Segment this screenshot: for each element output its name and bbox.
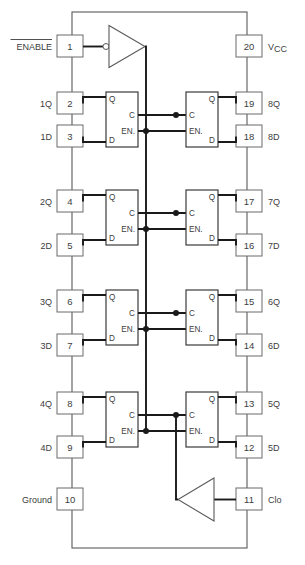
flipflop-3-port-c: C xyxy=(129,309,135,318)
pin-14[interactable]: 14 xyxy=(236,334,262,356)
flipflop-3-port-en: EN. xyxy=(121,325,135,334)
pin-12-label: 5D xyxy=(268,443,280,453)
pin-18[interactable]: 18 xyxy=(236,125,262,147)
pin-1-number: 1 xyxy=(67,41,72,52)
ic-pinout-diagram: 1 2 3 4 5 xyxy=(0,0,305,565)
pin-6-label: 3Q xyxy=(40,297,52,307)
pin-17[interactable]: 17 xyxy=(236,190,262,212)
pin-18-label: 8D xyxy=(268,132,280,142)
pin-20-number: 20 xyxy=(244,41,255,52)
pin-10[interactable]: 10 xyxy=(57,488,83,510)
flipflop-5-port-q: Q xyxy=(209,395,215,404)
pin-7-number: 7 xyxy=(67,340,72,351)
pin-13-label: 5Q xyxy=(268,399,280,409)
junction-dot xyxy=(173,412,179,418)
flipflop-8-port-c: C xyxy=(189,111,195,120)
flipflop-7-port-en: EN. xyxy=(189,225,203,234)
pin-12[interactable]: 12 xyxy=(236,436,262,458)
flipflop-4-port-c: C xyxy=(129,411,135,420)
pin-8-label: 4Q xyxy=(40,399,52,409)
pin-1[interactable]: 1 xyxy=(57,35,83,57)
pin-13-number: 13 xyxy=(244,398,255,409)
flipflop-3-port-d: D xyxy=(109,334,115,343)
flipflop-1-port-en: EN. xyxy=(121,127,135,136)
pin-7[interactable]: 7 xyxy=(57,334,83,356)
pin-6[interactable]: 6 xyxy=(57,290,83,312)
junction-dot xyxy=(143,326,149,332)
pin-5-label: 2D xyxy=(40,241,52,251)
flipflop-6-port-q: Q xyxy=(209,293,215,302)
pin-11-label: Clo xyxy=(268,495,282,505)
pin-2-number: 2 xyxy=(67,98,72,109)
flipflop-2-port-en: EN. xyxy=(121,225,135,234)
junction-dot xyxy=(143,128,149,134)
right-pin-labels: VCC 8Q 8D 7Q 7D 6Q 6D 5Q 5D Clo xyxy=(268,42,288,505)
pin-15-label: 6Q xyxy=(268,297,280,307)
flipflop-7-port-q: Q xyxy=(209,193,215,202)
flipflop-8-port-q: Q xyxy=(209,95,215,104)
flipflop-1-port-q: Q xyxy=(109,95,115,104)
pin-16-label: 7D xyxy=(268,241,280,251)
pin-20-label: VCC xyxy=(268,42,288,55)
flipflop-5-port-en: EN. xyxy=(189,427,203,436)
pin-13[interactable]: 13 xyxy=(236,392,262,414)
pin-16-number: 16 xyxy=(244,240,255,251)
flipflop-1-port-c: C xyxy=(129,111,135,120)
junction-dot xyxy=(173,112,179,118)
pin-14-label: 6D xyxy=(268,341,280,351)
pin-9-number: 9 xyxy=(67,442,72,453)
pin-2[interactable]: 2 xyxy=(57,92,83,114)
pin-5[interactable]: 5 xyxy=(57,234,83,256)
pin-17-number: 17 xyxy=(244,196,255,207)
flipflop-5-port-c: C xyxy=(189,411,195,420)
pin-19-number: 19 xyxy=(244,98,255,109)
pin-15-number: 15 xyxy=(244,296,255,307)
flipflop-4-port-en: EN. xyxy=(121,427,135,436)
flipflop-5-port-d: D xyxy=(209,436,215,445)
pin-11-number: 11 xyxy=(244,494,254,505)
junction-dot xyxy=(173,310,179,316)
pin-4-number: 4 xyxy=(67,196,72,207)
flipflop-4-port-q: Q xyxy=(109,395,115,404)
pin-3-number: 3 xyxy=(67,131,72,142)
pin-6-number: 6 xyxy=(67,296,72,307)
junction-dot xyxy=(173,210,179,216)
pin-8[interactable]: 8 xyxy=(57,392,83,414)
pin-18-number: 18 xyxy=(244,131,255,142)
left-pin-labels: ENABLE 1Q 1D 2Q 2D 3Q 3D 4Q 4D Ground xyxy=(11,40,53,505)
pin-16[interactable]: 16 xyxy=(236,234,262,256)
flipflop-2-port-d: D xyxy=(109,234,115,243)
flipflop-7-port-c: C xyxy=(189,209,195,218)
pin-9-label: 4D xyxy=(40,443,52,453)
pin-10-number: 10 xyxy=(65,494,76,505)
flipflop-3-port-q: Q xyxy=(109,293,115,302)
schematic-canvas: 1 2 3 4 5 xyxy=(0,0,305,565)
flipflop-2-port-c: C xyxy=(129,209,135,218)
pin-3[interactable]: 3 xyxy=(57,125,83,147)
pin-14-number: 14 xyxy=(244,340,255,351)
flipflop-6-port-en: EN. xyxy=(189,325,203,334)
flipflop-1-port-d: D xyxy=(109,136,115,145)
pin-20[interactable]: 20 xyxy=(236,35,262,57)
pin-4-label: 2Q xyxy=(40,197,52,207)
pin-8-number: 8 xyxy=(67,398,72,409)
pin-4[interactable]: 4 xyxy=(57,190,83,212)
flipflop-8-port-en: EN. xyxy=(189,127,203,136)
pin-7-label: 3D xyxy=(40,341,52,351)
pin-5-number: 5 xyxy=(67,240,72,251)
pin-19[interactable]: 19 xyxy=(236,92,262,114)
pin-19-label: 8Q xyxy=(268,99,280,109)
flipflop-4-port-d: D xyxy=(109,436,115,445)
pin-9[interactable]: 9 xyxy=(57,436,83,458)
flipflop-8-port-d: D xyxy=(209,136,215,145)
pin-12-number: 12 xyxy=(244,442,255,453)
pin-1-label: ENABLE xyxy=(16,42,52,52)
pin-17-label: 7Q xyxy=(268,197,280,207)
flipflop-7-port-d: D xyxy=(209,234,215,243)
pin-11[interactable]: 11 xyxy=(236,488,262,510)
flipflop-6-port-d: D xyxy=(209,334,215,343)
pin-15[interactable]: 15 xyxy=(236,290,262,312)
junction-dot xyxy=(143,428,149,434)
flipflop-2-port-q: Q xyxy=(109,193,115,202)
pin-10-label: Ground xyxy=(22,495,52,505)
